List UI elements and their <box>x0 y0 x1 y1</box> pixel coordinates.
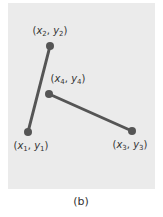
point-p3 <box>128 127 136 135</box>
segment-p1-p2 <box>28 46 50 132</box>
line-segments-diagram <box>0 0 163 217</box>
label-p3: (x3, y3) <box>113 140 148 152</box>
label-p4: (x4, y4) <box>51 74 86 86</box>
point-p4 <box>45 90 53 98</box>
label-p1: (x1, y1) <box>14 141 49 153</box>
point-p1 <box>24 128 32 136</box>
segment-p4-p3 <box>49 94 132 131</box>
figure-caption: (b) <box>73 195 89 208</box>
label-p2: (x2, y2) <box>33 26 68 38</box>
point-p2 <box>46 42 54 50</box>
